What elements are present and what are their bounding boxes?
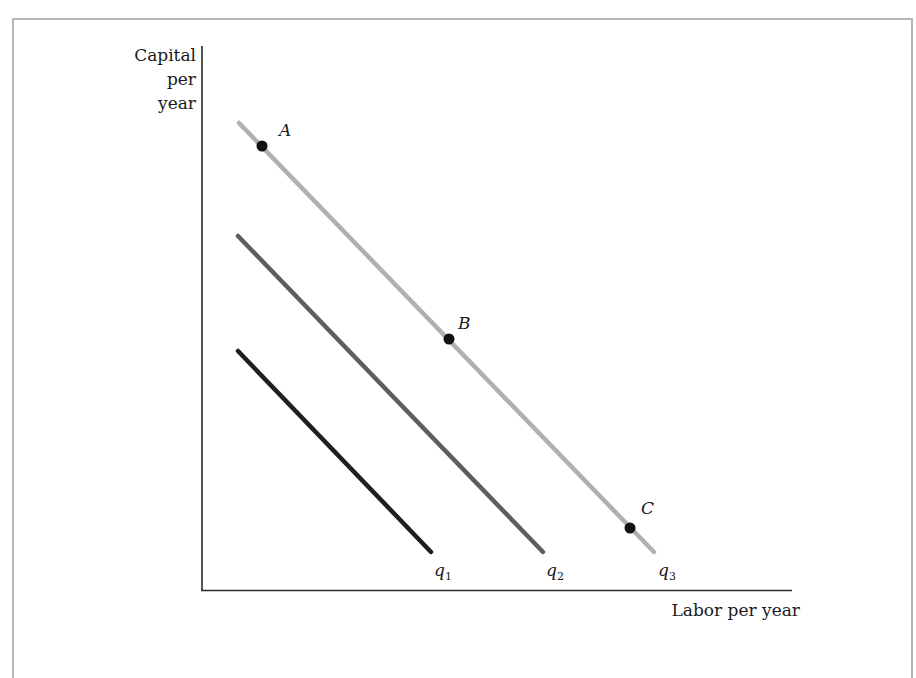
q2-subscript: 2 <box>557 570 564 583</box>
isoquant-q1 <box>238 351 431 552</box>
point-c-marker <box>625 523 636 534</box>
q1-subscript: 1 <box>445 570 452 583</box>
y-axis-label: Capital per year <box>110 43 196 115</box>
q3-subscript: 3 <box>669 570 676 583</box>
q3-letter: q <box>658 560 669 580</box>
point-b-marker <box>444 334 455 345</box>
isoquant-q3-label: q3 <box>658 560 676 583</box>
isoquant-q1-label: q1 <box>434 560 452 583</box>
isoquant-q2-label: q2 <box>546 560 564 583</box>
point-b-label: B <box>458 313 471 333</box>
y-axis-label-line-1: Capital <box>110 43 196 67</box>
y-axis-label-line-2: per <box>110 67 196 91</box>
isoquant-q2 <box>238 236 543 552</box>
x-axis-label: Labor per year <box>640 600 800 620</box>
point-a-label: A <box>279 120 291 140</box>
q1-letter: q <box>434 560 445 580</box>
y-axis-label-line-3: year <box>110 91 196 115</box>
point-a-marker <box>257 141 268 152</box>
q2-letter: q <box>546 560 557 580</box>
point-c-label: C <box>641 498 654 518</box>
